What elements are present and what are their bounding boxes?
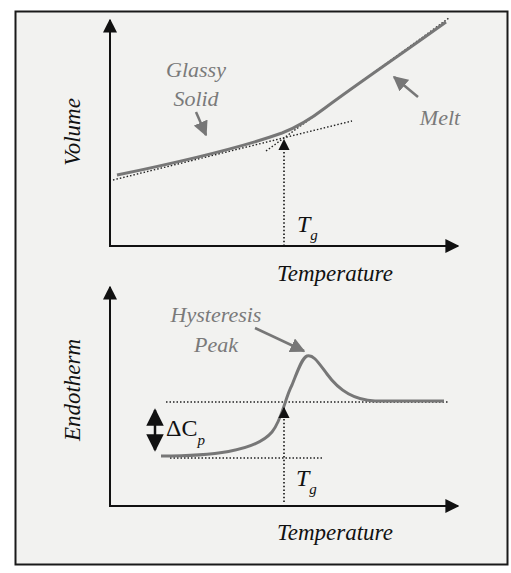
top-y-axis-label: Volume <box>60 98 85 166</box>
glassy-label: Glassy <box>166 57 226 82</box>
top-x-axis-label: Temperature <box>277 261 393 286</box>
bottom-y-axis-label: Endotherm <box>60 339 85 442</box>
hysteresis-label: Hysteresis <box>170 302 262 327</box>
delta-cp-subscript: p <box>196 432 205 448</box>
bottom-x-axis-label: Temperature <box>277 520 393 545</box>
melt-label: Melt <box>419 105 461 130</box>
top-tg-subscript: g <box>310 227 318 243</box>
delta-cp-symbol: ΔC <box>166 415 197 441</box>
glass-transition-figure: Glassy Solid Melt Tg Temperature Volume … <box>0 0 511 573</box>
solid-label: Solid <box>173 86 219 111</box>
bottom-tg-subscript: g <box>309 481 317 497</box>
peak-label: Peak <box>193 332 239 357</box>
figure-background <box>16 12 508 565</box>
